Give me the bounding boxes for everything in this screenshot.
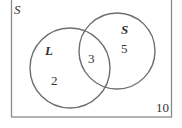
- intersection-count: 3: [88, 52, 95, 65]
- set-l-label: L: [45, 44, 53, 57]
- set-s-only-count: 5: [121, 42, 128, 55]
- outside-count: 10: [156, 101, 169, 114]
- set-s-label: S: [121, 23, 128, 36]
- universe-label: S: [14, 3, 21, 16]
- set-l-only-count: 2: [51, 74, 58, 87]
- set-l-circle: [30, 28, 110, 108]
